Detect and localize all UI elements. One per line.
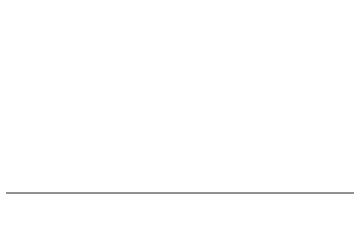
modular-tessellation-figure bbox=[0, 0, 360, 210]
